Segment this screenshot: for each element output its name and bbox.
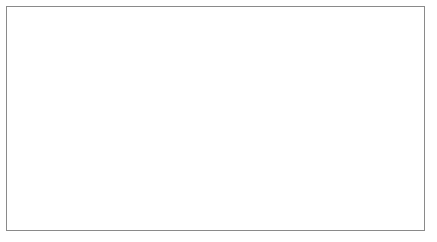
chart-figure: 024681012141618 196019651970197519801985… xyxy=(0,0,437,242)
figure-border xyxy=(6,6,425,231)
